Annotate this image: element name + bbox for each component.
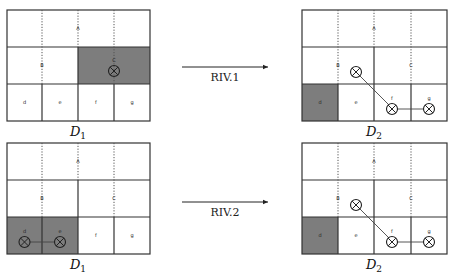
cell-label-g: g bbox=[427, 228, 430, 235]
cell-label-d: d bbox=[318, 232, 321, 238]
arrow-label: RIV.1 bbox=[210, 71, 239, 84]
cell-label-g: g bbox=[130, 99, 133, 106]
panel-label: D2 bbox=[365, 257, 382, 274]
cell-label-f: f bbox=[95, 99, 97, 105]
riv-diagram: A B C d e f g D1 RIV.1 A B C d e f g bbox=[0, 0, 455, 277]
panel-label: D1 bbox=[69, 124, 86, 141]
cell-label-A: A bbox=[76, 158, 80, 164]
cell-label-B: B bbox=[336, 195, 340, 201]
arrow-riv2: RIV.2 bbox=[182, 202, 268, 219]
cell-label-B: B bbox=[40, 62, 44, 68]
panel-bottom-left: A B C d e f g D1 bbox=[7, 143, 150, 274]
panel-bottom-right: A B C d e f g D2 bbox=[302, 143, 447, 274]
cell-label-f: f bbox=[391, 228, 393, 234]
cell-label-A: A bbox=[372, 25, 376, 31]
panel-label: D2 bbox=[365, 124, 382, 141]
cell-label-e: e bbox=[58, 228, 61, 234]
panel-top-right: A B C d e f g D2 bbox=[302, 10, 447, 141]
arrow-label: RIV.2 bbox=[210, 206, 239, 219]
cell-label-f: f bbox=[95, 232, 97, 238]
cell-label-d: d bbox=[23, 228, 26, 234]
arrow-riv1: RIV.1 bbox=[182, 67, 268, 84]
cell-label-e: e bbox=[354, 99, 357, 105]
cell-label-C: C bbox=[112, 57, 116, 63]
cell-label-A: A bbox=[372, 158, 376, 164]
cell-label-g: g bbox=[130, 232, 133, 239]
cell-label-f: f bbox=[391, 95, 393, 101]
cell-label-d: d bbox=[318, 99, 321, 105]
panel-top-left: A B C d e f g D1 bbox=[7, 10, 150, 141]
cell-label-A: A bbox=[76, 25, 80, 31]
x-node-icon bbox=[351, 67, 362, 78]
cell-label-B: B bbox=[336, 62, 340, 68]
cell-label-C: C bbox=[112, 195, 116, 201]
x-node-icon bbox=[351, 200, 362, 211]
cell-label-C: C bbox=[409, 195, 413, 201]
cell-label-C: C bbox=[409, 62, 413, 68]
x-node-icon bbox=[424, 237, 435, 248]
cell-label-e: e bbox=[58, 99, 61, 105]
cell-label-e: e bbox=[354, 232, 357, 238]
cell-label-d: d bbox=[23, 99, 26, 105]
cell-label-g: g bbox=[427, 95, 430, 102]
x-node-icon bbox=[387, 237, 398, 248]
x-node-icon bbox=[387, 104, 398, 115]
panel-label: D1 bbox=[69, 257, 86, 274]
cell-label-B: B bbox=[40, 195, 44, 201]
x-node-icon bbox=[424, 104, 435, 115]
